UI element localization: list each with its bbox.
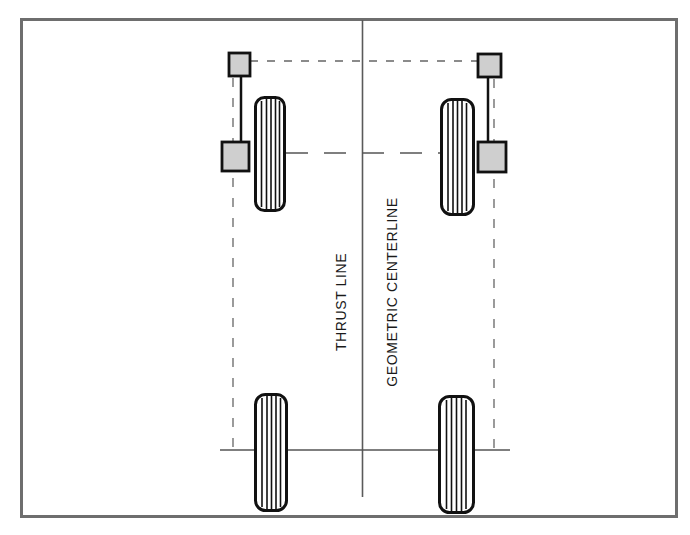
right-lower-target-icon <box>478 142 506 172</box>
alignment-diagram: THRUST LINE GEOMETRIC CENTERLINE <box>0 0 690 535</box>
left-lower-target-icon <box>222 142 249 171</box>
front-left-tire-icon <box>256 98 285 211</box>
right-upper-target-icon <box>478 54 501 77</box>
thrust-line-label: THRUST LINE <box>333 253 349 351</box>
front-left-target-assembly <box>222 53 250 171</box>
rear-right-tire-icon <box>440 397 474 513</box>
diagram-frame <box>22 20 677 517</box>
rear-left-tire-icon <box>256 395 287 511</box>
front-right-target-assembly <box>478 54 506 172</box>
front-right-tire-icon <box>442 100 474 215</box>
geometric-centerline-label: GEOMETRIC CENTERLINE <box>384 197 400 386</box>
left-upper-target-icon <box>229 53 250 76</box>
